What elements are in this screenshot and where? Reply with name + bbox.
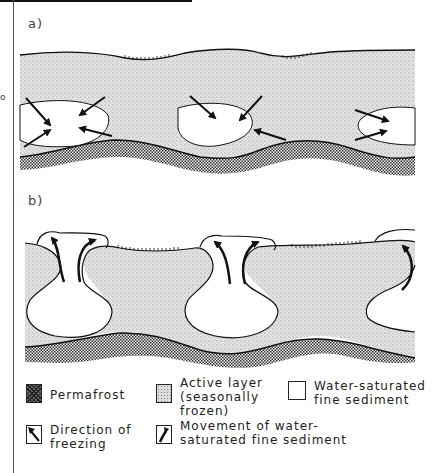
water-saturated-swatch-icon — [288, 381, 306, 400]
legend-label: Direction of freezing — [50, 423, 132, 451]
legend-active-layer: Active layer (seasonally frozen) — [156, 384, 263, 418]
legend-label: Movement of water- saturated fine sedime… — [180, 419, 347, 447]
curved-arrow-icon — [156, 425, 172, 444]
panel-a-diagram — [20, 49, 415, 175]
panel-b-diagram — [25, 229, 415, 367]
permafrost-swatch-icon — [26, 384, 42, 403]
legend-movement: Movement of water- saturated fine sedime… — [156, 425, 347, 447]
legend-permafrost: Permafrost — [26, 384, 125, 403]
legend-direction-freezing: Direction of freezing — [26, 425, 132, 451]
legend-label: Permafrost — [50, 388, 125, 402]
legend-label: Water-saturated fine sediment — [314, 379, 426, 407]
straight-arrow-icon — [26, 425, 42, 444]
panel-a-label: a) — [28, 16, 43, 31]
legend-label: Active layer (seasonally frozen) — [180, 376, 263, 418]
legend-water-saturated: Water-saturated fine sediment — [288, 381, 426, 407]
panel-b-label: b) — [28, 193, 43, 208]
active-layer-swatch-icon — [156, 384, 172, 403]
